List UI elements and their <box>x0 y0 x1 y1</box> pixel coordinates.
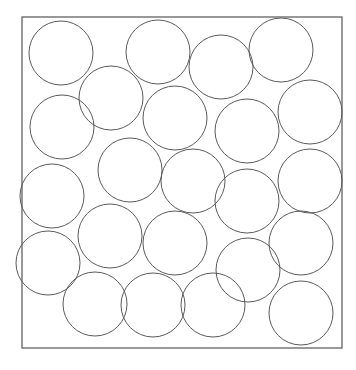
packed-circle <box>98 138 162 202</box>
packed-circles-group <box>16 18 342 345</box>
circle-packing-diagram <box>0 0 356 370</box>
packed-circle <box>269 281 333 345</box>
packed-circle <box>278 80 342 144</box>
packed-circle <box>121 273 185 337</box>
packed-circle <box>189 35 253 99</box>
packed-circle <box>215 99 279 163</box>
packed-circle <box>30 95 94 159</box>
packed-circle <box>269 211 333 275</box>
packed-circle <box>29 21 93 85</box>
packed-circle <box>126 20 190 84</box>
packed-circle <box>63 272 127 336</box>
packed-circle <box>16 231 80 295</box>
packed-circle <box>20 164 84 228</box>
packed-circle <box>78 204 142 268</box>
packed-circle <box>278 149 342 213</box>
packed-circle <box>249 18 313 82</box>
packed-circle <box>143 86 207 150</box>
packed-circle <box>215 169 279 233</box>
packed-circle <box>181 273 245 337</box>
packed-circle <box>143 211 207 275</box>
packed-circle <box>216 238 280 302</box>
packed-circle <box>79 66 143 130</box>
